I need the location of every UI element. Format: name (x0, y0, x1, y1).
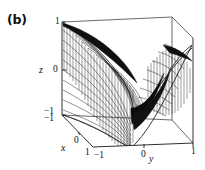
x-tick-label-1: 1 (85, 148, 90, 158)
surface-plot-3d (0, 0, 205, 170)
z-axis-label: z (39, 65, 43, 75)
y-axis-label: y (149, 154, 153, 164)
mesh-surface (63, 23, 192, 147)
y-tick-label-0: 0 (141, 150, 146, 160)
z-tick-label-1: 1 (55, 17, 60, 27)
y-tick-label-1: 1 (191, 147, 196, 157)
surface-crest-shading (63, 23, 192, 83)
x-tick-label-0: 0 (74, 136, 79, 146)
mesh-sheet-back-left (63, 23, 146, 116)
panel-label: (b) (7, 12, 27, 27)
x-axis-label: x (61, 143, 65, 153)
figure-panel: (b) 1 0 −1 z −1 0 1 x −1 0 1 y (0, 0, 205, 170)
x-tick-label-minus1: −1 (44, 114, 54, 124)
y-tick-label-minus1: −1 (94, 151, 104, 161)
z-tick-label-0: 0 (53, 65, 58, 75)
